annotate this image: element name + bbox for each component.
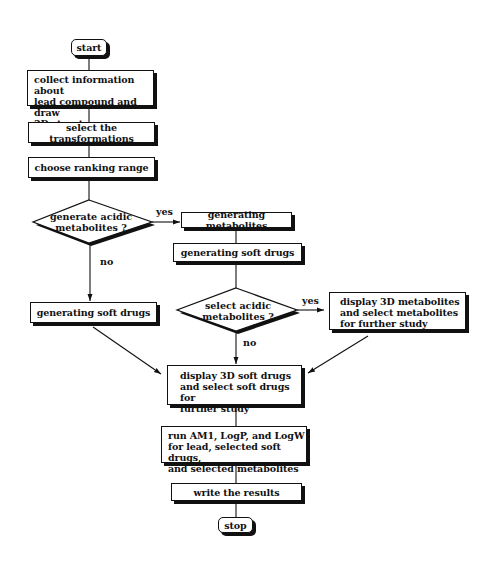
generating-metabolites-step: generating metabolites: [181, 212, 292, 228]
generating-soft-drugs-left-label: generating soft drugs: [37, 307, 151, 318]
display-metabolites-step: display 3D metabolites and select metabo…: [329, 292, 466, 330]
edge-label-yes-2: yes: [302, 295, 319, 306]
choose-ranking-range-label: choose ranking range: [35, 162, 149, 173]
run-calculations-step: run AM1, LogP, and LogW for lead, select…: [161, 426, 307, 463]
edge-label-no-1: no: [100, 256, 113, 267]
display-metabolites-label: display 3D metabolites and select metabo…: [340, 296, 459, 329]
stop-label: stop: [224, 520, 246, 531]
decision-select-acidic-label: select acidic metabolites ?: [198, 300, 278, 322]
flowchart-canvas: start collect information about lead com…: [0, 0, 490, 561]
edge-genleft-display: [93, 327, 161, 374]
edge-displaymet-display: [308, 336, 368, 373]
start-label: start: [77, 42, 102, 53]
write-results-label: write the results: [193, 487, 279, 498]
generating-soft-drugs-right-label: generating soft drugs: [181, 247, 295, 258]
generating-soft-drugs-right-step: generating soft drugs: [173, 243, 302, 262]
generating-metabolites-label: generating metabolites: [182, 209, 291, 231]
write-results-step: write the results: [171, 483, 302, 501]
start-terminator: start: [71, 39, 107, 56]
select-transformations-label: select the transformations: [29, 122, 154, 144]
decision-generate-acidic-label: generate acidic metabolites ?: [48, 211, 134, 233]
stop-terminator: stop: [218, 517, 253, 533]
choose-ranking-range-step: choose ranking range: [28, 157, 155, 178]
generating-soft-drugs-left-step: generating soft drugs: [30, 302, 157, 323]
edge-label-no-2: no: [243, 337, 256, 348]
select-transformations-step: select the transformations: [28, 122, 155, 143]
run-calculations-label: run AM1, LogP, and LogW for lead, select…: [168, 430, 304, 474]
edge-label-yes-1: yes: [156, 206, 173, 217]
display-soft-drugs-step: display 3D soft drugs and select soft dr…: [167, 365, 302, 405]
collect-information-step: collect information about lead compound …: [27, 70, 154, 106]
